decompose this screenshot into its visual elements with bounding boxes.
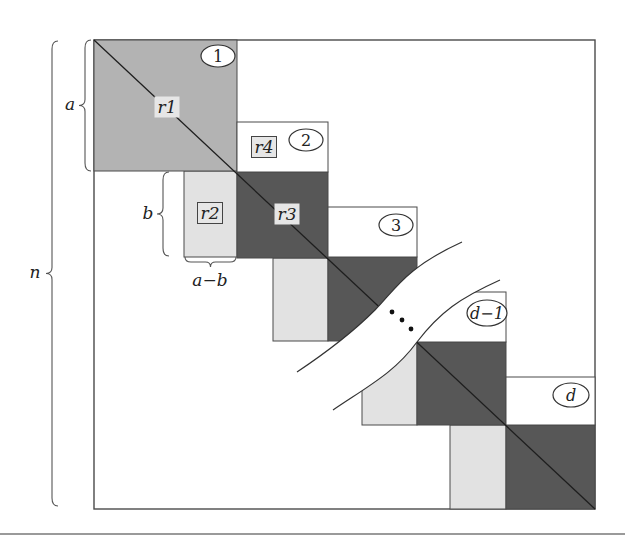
ellipsis-dot-icon [400, 318, 405, 323]
region-label-r3: r3 [278, 204, 297, 224]
brace-label-n: n [30, 262, 41, 282]
block-number-1: 1 [213, 47, 223, 66]
brace-a-icon [79, 40, 91, 171]
brace-label-a-b: a−b [192, 270, 227, 290]
block-diagonal-diagram: r1r4r2r3 123d−1d naba−b [0, 0, 625, 536]
bottom-rule [0, 533, 625, 535]
brace-a-b-icon [185, 257, 236, 267]
region-label-r1: r1 [158, 97, 177, 117]
light-block-2 [273, 258, 328, 341]
block-number-d-1: d−1 [470, 304, 504, 323]
region-label-r2: r2 [201, 203, 220, 223]
block-number-d: d [566, 386, 576, 405]
brace-n-icon [46, 41, 58, 506]
region-label-r4: r4 [255, 137, 274, 157]
ellipsis-dot-icon [390, 310, 395, 315]
brace-label-a: a [65, 94, 75, 114]
block-number-3: 3 [391, 216, 401, 235]
brace-label-b: b [143, 203, 154, 223]
brace-b-icon [157, 172, 169, 256]
light-block-4 [450, 425, 506, 509]
ellipsis-dot-icon [409, 327, 414, 332]
block-number-2: 2 [301, 131, 311, 150]
